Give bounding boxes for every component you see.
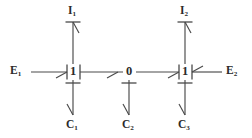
label-c3: C3 — [178, 119, 190, 132]
label-e2-subscript: 2 — [234, 70, 238, 78]
halfarrow-e1-to-j1 — [56, 72, 67, 78]
junction-1-right-label: 1 — [182, 64, 188, 78]
halfarrow-j0-to-j2 — [168, 72, 179, 78]
label-e1: E1 — [10, 65, 21, 78]
label-i2-subscript: 2 — [184, 10, 188, 18]
halfarrow-j1-to-c1 — [67, 104, 73, 115]
label-e2-symbol: E — [226, 64, 234, 76]
bond-graph-figure: E1 E2 I1 I2 C1 C2 C3 1 0 1 — [0, 0, 252, 138]
halfarrow-j0-to-c2 — [123, 104, 129, 115]
halfarrow-j2-to-c3 — [179, 104, 185, 115]
junction-1-left-label: 1 — [70, 64, 76, 78]
halfarrow-j1-to-i1 — [73, 22, 79, 33]
label-c2: C2 — [122, 119, 134, 132]
label-e2: E2 — [226, 65, 237, 78]
label-i2: I2 — [180, 5, 188, 18]
label-e1-subscript: 1 — [18, 70, 22, 78]
label-c3-subscript: 3 — [186, 124, 190, 132]
label-i1-subscript: 1 — [72, 10, 76, 18]
halfarrow-j2-to-i2 — [185, 22, 191, 33]
label-c1-subscript: 1 — [74, 124, 78, 132]
label-c2-subscript: 2 — [130, 124, 134, 132]
label-c1: C1 — [66, 119, 78, 132]
halfarrow-e2-to-j2 — [192, 66, 203, 72]
junction-0-middle: 0 — [126, 65, 132, 78]
label-e1-symbol: E — [10, 64, 18, 76]
halfarrow-j1-to-j0 — [107, 72, 118, 78]
junction-0-middle-label: 0 — [126, 64, 132, 78]
junction-1-left: 1 — [70, 65, 76, 78]
label-i1: I1 — [68, 5, 76, 18]
junction-1-right: 1 — [182, 65, 188, 78]
